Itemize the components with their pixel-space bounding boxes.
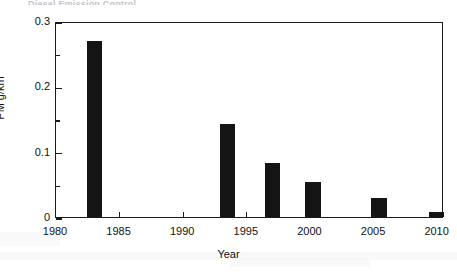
- clipped-header-text: Diesel Emission Control: [28, 0, 238, 5]
- bar: [305, 182, 320, 217]
- y-axis-minor-tick: [56, 120, 60, 121]
- x-axis-tick: [373, 212, 374, 217]
- y-axis-tick: [56, 88, 62, 89]
- plot-area: [55, 22, 443, 218]
- x-axis-tick: [310, 212, 311, 217]
- x-axis-tick-label: 2005: [361, 225, 385, 237]
- y-axis-minor-tick: [56, 55, 60, 56]
- y-axis-tick-label: 0.2: [8, 80, 50, 92]
- y-axis-title: PM g/km: [0, 76, 6, 119]
- x-axis-tick-label: 1990: [170, 225, 194, 237]
- y-axis-tick: [56, 218, 62, 219]
- x-axis-tick: [183, 212, 184, 217]
- y-axis-minor-tick: [56, 186, 60, 187]
- y-axis-tick: [56, 22, 62, 23]
- x-axis-tick-label: 1980: [43, 225, 67, 237]
- x-axis-title: Year: [0, 248, 457, 260]
- y-axis-tick-label: 0.3: [8, 15, 50, 27]
- x-axis-tick-label: 1995: [234, 225, 258, 237]
- y-axis-tick-label: 0.1: [8, 146, 50, 158]
- x-axis-tick: [437, 212, 438, 217]
- y-axis-tick-label: 0: [8, 211, 50, 223]
- bars-layer: [56, 23, 442, 217]
- bar: [220, 124, 235, 217]
- pm-emissions-bar-chart: Diesel Emission Control 00.10.20.3 19801…: [0, 0, 457, 272]
- bar: [265, 163, 280, 217]
- x-axis-tick-label: 1985: [106, 225, 130, 237]
- x-axis-tick-label: 2000: [297, 225, 321, 237]
- y-axis-tick: [56, 153, 62, 154]
- x-axis-tick: [246, 212, 247, 217]
- bar: [87, 41, 102, 217]
- x-axis-tick: [119, 212, 120, 217]
- x-axis-tick-label: 2010: [424, 225, 448, 237]
